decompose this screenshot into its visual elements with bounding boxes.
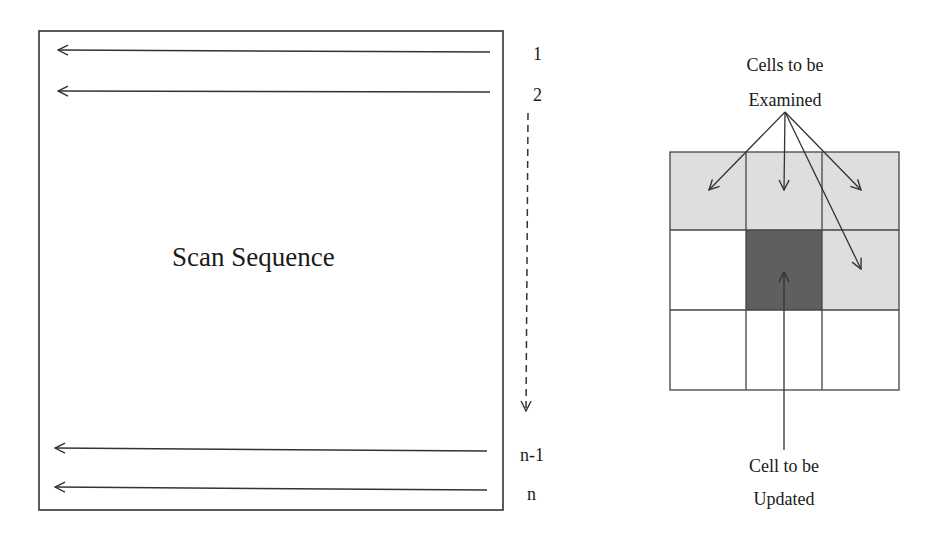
row-label-1: 1 (533, 44, 542, 64)
cell-examined-top-right (822, 152, 899, 230)
cell-examined-mid-right (822, 230, 899, 310)
updated-label-line1: Cell to be (749, 456, 819, 476)
scan-arrow-row-n (55, 487, 487, 490)
row-label-2: 2 (533, 85, 542, 105)
diagram-canvas (0, 0, 942, 535)
progression-dashed-arrow (526, 113, 528, 411)
cell-empty-bottom-left (670, 310, 746, 390)
scan-arrow-row-2 (58, 91, 490, 92)
cell-empty-mid-left (670, 230, 746, 310)
examined-label-line1: Cells to be (747, 55, 824, 75)
scan-arrow-row-n-minus-1 (55, 448, 487, 451)
scan-sequence-title: Scan Sequence (172, 242, 335, 273)
examined-label-line2: Examined (749, 90, 822, 110)
row-label-n: n (527, 484, 536, 504)
updated-label-line2: Updated (754, 489, 815, 509)
cell-empty-bottom-right (822, 310, 899, 390)
row-label-n-minus-1: n-1 (520, 445, 544, 465)
scan-arrow-row-1 (58, 50, 490, 52)
